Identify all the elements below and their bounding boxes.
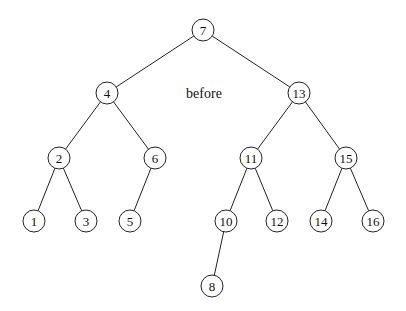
nodes: 7413261115135101214168 [23, 19, 384, 297]
tree-svg: 7413261115135101214168 before [0, 0, 406, 311]
node-label: 1 [31, 214, 38, 229]
node-label: 6 [152, 151, 159, 166]
node-label: 2 [56, 151, 63, 166]
edge-11-12 [255, 168, 273, 211]
tree-node-4: 4 [96, 82, 118, 104]
edge-10-8 [214, 232, 223, 275]
edge-4-2 [66, 102, 101, 149]
edge-13-15 [305, 102, 339, 149]
tree-node-2: 2 [48, 147, 70, 169]
tree-node-6: 6 [144, 147, 166, 169]
node-label: 10 [220, 214, 233, 229]
caption-label: before [186, 86, 222, 101]
edge-11-10 [230, 168, 247, 211]
node-label: 7 [200, 23, 207, 38]
node-label: 16 [367, 214, 381, 229]
tree-node-10: 10 [215, 210, 237, 232]
node-label: 15 [340, 151, 353, 166]
tree-node-16: 16 [362, 210, 384, 232]
node-label: 4 [104, 86, 111, 101]
edge-15-16 [350, 168, 368, 211]
tree-node-3: 3 [75, 210, 97, 232]
node-label: 12 [271, 214, 284, 229]
edges [38, 36, 369, 275]
edge-6-5 [134, 168, 151, 211]
tree-node-13: 13 [288, 82, 310, 104]
edge-7-13 [212, 36, 290, 87]
node-label: 14 [315, 214, 329, 229]
edge-13-11 [258, 102, 293, 149]
edge-15-14 [325, 168, 342, 211]
tree-node-5: 5 [119, 210, 141, 232]
edge-4-6 [114, 102, 149, 149]
tree-node-14: 14 [310, 210, 332, 232]
node-label: 13 [293, 86, 306, 101]
edge-7-4 [116, 36, 194, 87]
node-label: 3 [83, 214, 90, 229]
edge-2-1 [38, 168, 55, 211]
tree-node-7: 7 [192, 19, 214, 41]
tree-node-1: 1 [23, 210, 45, 232]
tree-node-15: 15 [335, 147, 357, 169]
tree-node-11: 11 [240, 147, 262, 169]
edge-2-3 [63, 168, 81, 211]
node-label: 11 [245, 151, 258, 166]
node-label: 5 [127, 214, 134, 229]
tree-node-12: 12 [266, 210, 288, 232]
tree-node-8: 8 [201, 275, 223, 297]
tree-diagram: 7413261115135101214168 before [0, 0, 406, 311]
node-label: 8 [209, 279, 216, 294]
